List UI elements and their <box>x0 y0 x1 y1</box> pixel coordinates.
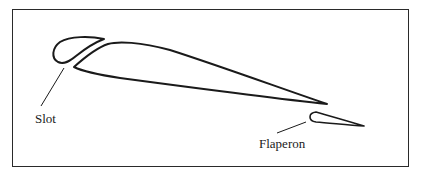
main-wing <box>74 42 327 104</box>
slot-leader-line <box>41 68 64 106</box>
flaperon-leader-line <box>277 122 306 133</box>
airfoil-diagram <box>0 0 421 180</box>
slot-label: Slot <box>35 112 56 125</box>
flaperon <box>310 112 364 126</box>
flaperon-label: Flaperon <box>259 137 305 150</box>
